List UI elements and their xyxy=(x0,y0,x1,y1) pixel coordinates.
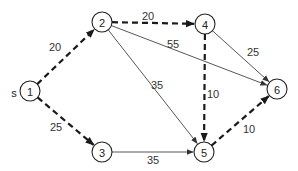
edge-weight-2-4: 20 xyxy=(142,10,154,22)
edge-4-to-6 xyxy=(212,31,268,82)
node-1: 1 xyxy=(20,81,40,101)
node-2: 2 xyxy=(92,12,112,32)
edge-labels-layer: 202520553535251010 xyxy=(49,10,259,166)
source-label: s xyxy=(11,87,17,99)
node-4: 4 xyxy=(195,14,215,34)
edge-weight-4-5: 10 xyxy=(207,88,219,100)
network-graph: 202520553535251010 123456 s xyxy=(0,0,298,171)
edge-4-to-5 xyxy=(204,34,205,141)
node-3: 3 xyxy=(92,142,112,162)
edge-2-to-6 xyxy=(111,26,266,85)
edge-weight-1-2: 20 xyxy=(49,41,61,53)
node-label: 5 xyxy=(201,147,207,159)
node-label: 3 xyxy=(99,147,105,159)
edge-weight-2-6: 55 xyxy=(167,38,179,50)
edge-5-to-6 xyxy=(212,96,269,145)
node-label: 1 xyxy=(27,86,33,98)
node-label: 4 xyxy=(202,19,208,31)
edge-weight-3-5: 35 xyxy=(147,154,159,166)
node-label: 2 xyxy=(99,17,105,29)
edge-1-to-2 xyxy=(37,30,94,84)
edge-1-to-3 xyxy=(38,97,94,144)
node-6: 6 xyxy=(267,79,287,99)
edge-weight-4-6: 25 xyxy=(247,46,259,58)
node-label: 6 xyxy=(274,84,280,96)
edge-weight-1-3: 25 xyxy=(50,121,62,133)
edge-2-to-4 xyxy=(112,22,194,24)
node-5: 5 xyxy=(194,142,214,162)
edge-weight-2-5: 35 xyxy=(151,79,163,91)
edge-weight-5-6: 10 xyxy=(243,123,255,135)
